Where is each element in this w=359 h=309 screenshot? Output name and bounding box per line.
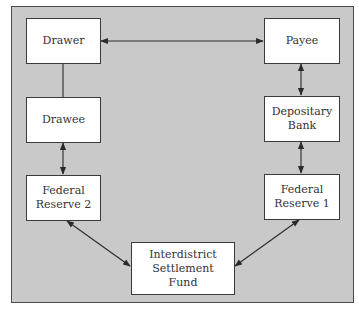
- node-label: Fund: [169, 276, 198, 290]
- node-interdistrict-settlement-fund: Interdistrict Settlement Fund: [131, 242, 235, 295]
- node-payee: Payee: [264, 18, 340, 64]
- node-federal-reserve-1: Federal Reserve 1: [264, 174, 340, 220]
- node-federal-reserve-2: Federal Reserve 2: [26, 175, 101, 221]
- node-label: Drawer: [43, 34, 85, 48]
- node-label: Federal: [281, 183, 323, 197]
- node-label: Bank: [288, 119, 316, 133]
- node-label: Settlement: [152, 262, 213, 276]
- node-depositary-bank: Depositary Bank: [264, 96, 340, 142]
- node-label: Reserve 1: [274, 197, 329, 211]
- node-drawee: Drawee: [26, 97, 101, 143]
- node-label: Reserve 2: [36, 198, 91, 212]
- node-label: Depositary: [272, 105, 333, 119]
- edge-fr1-fund: [235, 220, 299, 266]
- node-label: Payee: [286, 34, 319, 48]
- node-label: Drawee: [42, 113, 85, 127]
- node-drawer: Drawer: [26, 18, 101, 64]
- edge-fr2-fund: [67, 221, 130, 266]
- node-label: Federal: [42, 184, 84, 198]
- node-label: Interdistrict: [149, 248, 217, 262]
